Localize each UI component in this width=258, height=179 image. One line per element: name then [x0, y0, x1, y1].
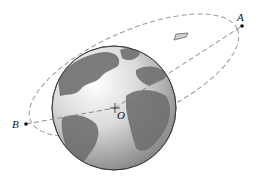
label-a: A: [237, 12, 244, 23]
label-b: B: [12, 119, 19, 130]
label-o: O: [117, 110, 125, 121]
point-a: [240, 24, 244, 28]
orbit-diagram: [0, 0, 258, 179]
spacecraft-icon: [174, 33, 188, 40]
point-b: [24, 122, 28, 126]
